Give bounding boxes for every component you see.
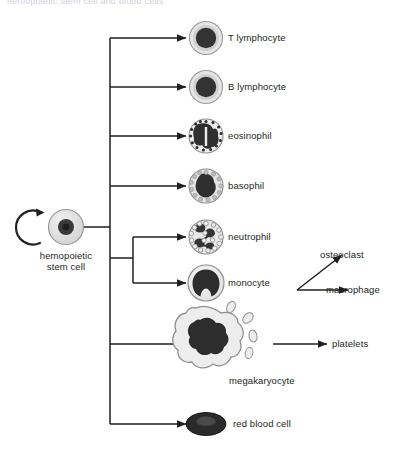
label-macrophage: macrophage: [326, 284, 380, 295]
basophil-cell-icon: [189, 169, 223, 203]
neutrophil-cell-icon: [189, 220, 223, 254]
label-eosinophil: eosinophil: [228, 130, 272, 141]
label-megakaryocyte: megakaryocyte: [229, 375, 295, 386]
label-osteoclast: osteoclast: [320, 249, 364, 260]
label-red-blood-cell: red blood cell: [233, 418, 291, 429]
self-renewal-arrow-icon: [16, 209, 44, 245]
label-neutrophil: neutrophil: [228, 231, 271, 242]
hematopoiesis-diagram-svg: [0, 0, 401, 452]
megakaryocyte-cell-icon: [173, 300, 258, 368]
eosinophil-cell-icon: [189, 119, 223, 153]
label-basophil: basophil: [228, 180, 264, 191]
label-hemopoietic-stem-cell: hemopoietic stem cell: [22, 250, 110, 272]
red-blood-cell-icon: [186, 413, 226, 436]
label-t-lymphocyte: T lymphocyte: [228, 32, 286, 43]
label-platelets: platelets: [332, 338, 368, 349]
label-monocyte: monocyte: [228, 277, 270, 288]
diagram-canvas: hemopoietic stem cell and blood cells: [0, 0, 401, 452]
label-b-lymphocyte: B lymphocyte: [228, 81, 286, 92]
b-lymphocyte-cell-icon: [190, 71, 223, 104]
monocyte-cell-icon: [188, 265, 224, 301]
t-lymphocyte-cell-icon: [190, 22, 223, 55]
hemopoietic-stem-cell-icon: [49, 210, 84, 245]
